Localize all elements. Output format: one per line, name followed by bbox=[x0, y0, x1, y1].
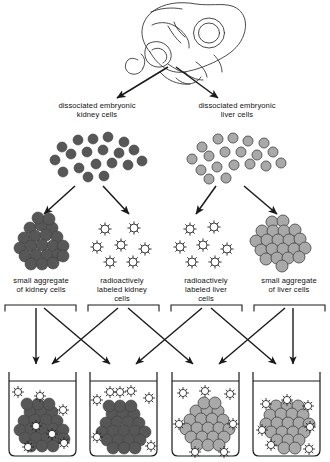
beaker-2 bbox=[90, 372, 157, 456]
line-kidagg-to-beaker2 bbox=[44, 308, 110, 364]
line-livagg-to-beaker3 bbox=[219, 308, 285, 364]
line-lblkid-to-beaker1 bbox=[52, 308, 118, 364]
label-dissociated-liver: dissociated embryonic liver cells bbox=[172, 101, 302, 119]
embryo-icon bbox=[125, 3, 245, 84]
label-labeled-liver: radioactively labeled liver cells bbox=[168, 276, 244, 304]
labeled-liver-cells bbox=[173, 220, 233, 268]
dissociated-kidney-cells bbox=[50, 132, 147, 182]
small-aggregate-liver bbox=[250, 215, 311, 272]
arrow-liver-to-labeled bbox=[196, 186, 216, 214]
beaker-1 bbox=[9, 372, 76, 456]
label-labeled-kidney: radioactively labeled kidney cells bbox=[84, 276, 160, 304]
cell-sorting-diagram: dissociated embryonic kidney cells disso… bbox=[0, 0, 330, 462]
small-aggregate-kidney bbox=[14, 212, 69, 270]
line-lblliv-to-beaker4 bbox=[211, 308, 276, 364]
beaker-3 bbox=[172, 372, 239, 458]
labeled-kidney-cells bbox=[90, 221, 151, 268]
label-dissociated-kidney: dissociated embryonic kidney cells bbox=[32, 101, 162, 119]
label-small-aggregate-kidney: small aggregate of kidney cells bbox=[2, 276, 80, 294]
arrow-kidney-to-labeled bbox=[103, 186, 129, 214]
beaker-4 bbox=[253, 372, 320, 456]
arrow-liver-to-aggregate bbox=[244, 186, 277, 214]
dissociated-liver-cells bbox=[187, 133, 286, 184]
line-lblkid-to-beaker3 bbox=[128, 308, 193, 364]
line-lblliv-to-beaker2 bbox=[136, 308, 202, 364]
arrow-kidney-to-aggregate bbox=[44, 186, 75, 214]
arrow-embryo-to-kidney bbox=[117, 67, 168, 98]
label-small-aggregate-liver: small aggregate of liver cells bbox=[250, 276, 328, 294]
